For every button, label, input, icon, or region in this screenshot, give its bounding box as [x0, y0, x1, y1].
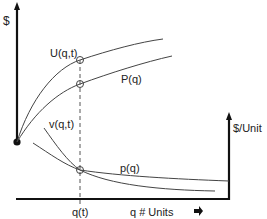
right-axis-label: $/Unit: [233, 123, 262, 134]
label-U: U(q,t): [50, 48, 78, 59]
label-qt: q(t): [72, 207, 89, 218]
curve-U: [17, 39, 163, 142]
curve-v: [44, 128, 215, 191]
right-axis-arrow-icon: [226, 112, 232, 120]
left-axis-arrow-icon: [14, 2, 20, 10]
label-v: v(q,t): [49, 119, 74, 130]
x-axis-label: q # Units: [130, 207, 173, 218]
label-p: p(q): [120, 163, 140, 174]
diagram-canvas: $ $/Unit U(q,t) P(q) v(q,t) p(q) q(t) q …: [0, 0, 267, 219]
left-axis-label: $: [3, 15, 10, 27]
x-axis-arrow-icon: [194, 206, 203, 216]
diagram-graphics: [0, 0, 267, 219]
label-P: P(q): [121, 74, 142, 85]
curve-P: [17, 56, 172, 142]
